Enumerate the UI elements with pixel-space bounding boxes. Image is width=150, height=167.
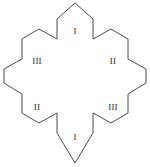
arm-label-upper-right: II xyxy=(110,57,116,66)
arm-label-bottom: I xyxy=(73,133,76,142)
arm-label-lower-left: II xyxy=(34,103,40,112)
arm-label-upper-left: III xyxy=(32,57,42,66)
arm-label-top: I xyxy=(73,27,76,36)
figure-canvas: I II III I II III xyxy=(0,0,150,167)
arm-label-lower-right: III xyxy=(108,103,118,112)
